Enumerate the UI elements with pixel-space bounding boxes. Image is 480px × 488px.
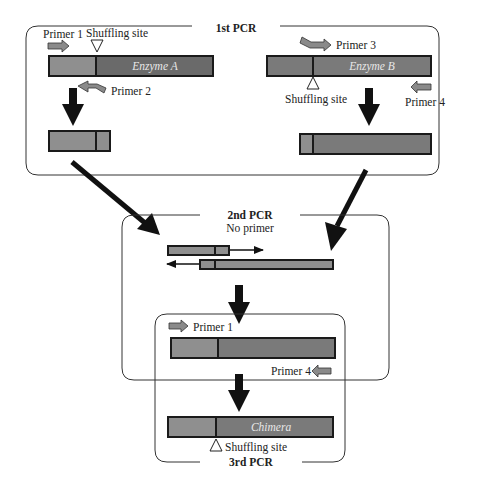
primer-3-arrow-icon [300,37,331,51]
enzyme-b-label: Enzyme B [348,60,395,73]
enzyme-a-label: Enzyme A [131,60,178,73]
stage3-primer-1-label: Primer 1 [193,321,233,333]
annealed-strand-bottom [167,260,333,269]
diagram-canvas: 1st PCR Enzyme A Primer 1 Shuffling site… [0,0,480,488]
primer-1-label: Primer 1 [43,28,83,40]
enzyme-b-fragment [300,134,431,154]
shuffling-site-chimera-icon [210,439,222,451]
enzyme-a-fragment [49,131,110,151]
primer-4-stage3-arrow-icon [312,365,331,377]
stage1-label: 1st PCR [216,22,257,34]
merge-arrow-left-icon [72,162,160,235]
chimera-label: Chimera [251,421,292,433]
primer-1-arrow-icon [48,40,69,52]
shuffling-site-a-icon [91,40,103,52]
stage3-box [155,314,345,462]
shuffling-site-b-icon [307,77,319,89]
annealed-strand-top [168,246,263,255]
stage3-template [171,338,335,358]
enzyme-a-gene [49,56,213,76]
primer-4-arrow-icon [411,81,431,93]
stage3-label: 3rd PCR [229,456,273,468]
down-arrow-a-icon [62,88,84,126]
shuffling-site-b-label: Shuffling site [285,93,347,106]
diagram: 1st PCR Enzyme A Primer 1 Shuffling site… [0,0,480,488]
stage2-sublabel: No primer [226,222,274,235]
primer-4-label: Primer 4 [405,96,445,108]
shuffling-site-a-label: Shuffling site [86,27,148,40]
primer-1-stage3-arrow-icon [169,320,188,332]
primer-2-label: Primer 2 [111,85,151,97]
down-arrow-2-icon [228,285,250,324]
merge-arrow-right-icon [325,170,366,251]
shuffling-site-chimera-label: Shuffling site [225,441,287,454]
primer-3-label: Primer 3 [336,39,376,51]
down-arrow-b-icon [358,88,380,126]
stage2-label: 2nd PCR [227,209,273,221]
primer-2-arrow-icon [78,81,106,93]
stage3-primer-4-label: Primer 4 [271,365,311,377]
